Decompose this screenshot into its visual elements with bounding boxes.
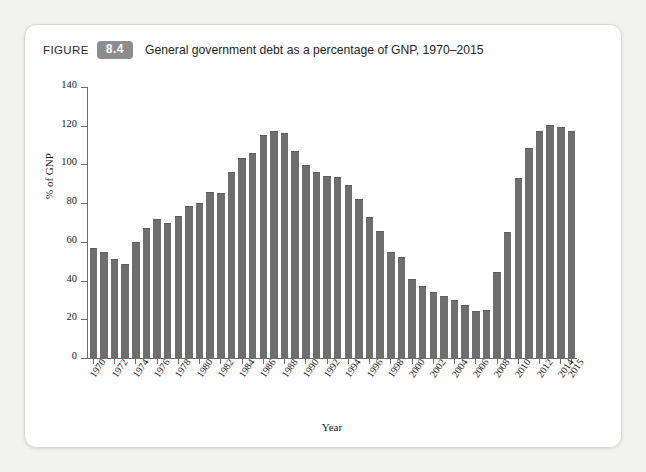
bar-slot [184,87,195,358]
bar [260,135,267,358]
x-label-slot: 1978 [173,365,184,405]
y-axis-tick-label: 60 [67,234,78,245]
bar [238,158,245,358]
figure-card: FIGURE 8.4 General government debt as a … [24,24,622,448]
bar [100,252,107,358]
bar [90,248,97,358]
bar [525,148,532,358]
bar-slot [205,87,216,358]
bar-slot [481,87,492,358]
bar [440,296,447,358]
x-label-slot [375,365,386,405]
x-axis-title: Year [87,421,577,433]
bar [164,223,171,359]
bar [472,311,479,358]
bar-slot [492,87,503,358]
y-axis-title: % of GNP [43,153,55,199]
bar-slot [152,87,163,358]
y-axis-tick: 80 [81,203,87,204]
bar [185,206,192,358]
bar-slot [449,87,460,358]
bar [270,131,277,358]
bar-slot [534,87,545,358]
bar-slot [354,87,365,358]
bar-slot [237,87,248,358]
x-label-slot: 1980 [194,365,205,405]
x-label-slot [205,365,216,405]
x-label-slot [141,365,152,405]
bar-slot [162,87,173,358]
x-axis-tick-labels: 1970197219741976197819801982198419861988… [88,365,577,405]
chart-plot-area: % of GNP 020406080100120140 197019721974… [25,69,623,447]
bar-slot [301,87,312,358]
y-axis-tick: 120 [81,126,87,127]
bar-slot [417,87,428,358]
bar [504,232,511,358]
bar [483,310,490,358]
x-label-slot: 2008 [492,365,503,405]
bar [249,153,256,358]
bar [228,172,235,358]
x-label-slot: 1986 [258,365,269,405]
x-label-slot: 1976 [152,365,163,405]
bar [568,131,575,358]
bar-slot [513,87,524,358]
y-axis-tick-label: 20 [67,311,78,322]
x-label-slot: 1984 [237,365,248,405]
bar [217,193,224,358]
x-label-slot [524,365,535,405]
bar [387,252,394,358]
x-label-slot [396,365,407,405]
bar [461,305,468,358]
bar [376,231,383,358]
bar [206,192,213,358]
bar [430,292,437,358]
bar [196,203,203,358]
bar-slot [226,87,237,358]
figure-number-badge: 8.4 [97,41,133,59]
bar [366,217,373,358]
bar-slot [386,87,397,358]
bar-slot [332,87,343,358]
bar [536,131,543,358]
bar [515,178,522,358]
bar-slot [269,87,280,358]
figure-title: General government debt as a percentage … [145,43,484,57]
bar-slot [88,87,99,358]
bar [355,199,362,358]
bar [153,219,160,358]
bar [121,264,128,358]
x-label-slot [481,365,492,405]
y-axis-tick: 0 [81,358,87,359]
bar-slot [194,87,205,358]
x-label-slot: 2000 [407,365,418,405]
x-label-slot [226,365,237,405]
bar-slot [247,87,258,358]
bar-slot [375,87,386,358]
bar-slot [407,87,418,358]
bar-slot [216,87,227,358]
x-label-slot [545,365,556,405]
x-label-slot: 1972 [109,365,120,405]
x-label-slot [99,365,110,405]
bar [302,165,309,358]
x-label-slot [184,365,195,405]
bar-slot [471,87,482,358]
bar [281,133,288,359]
bar-slot [290,87,301,358]
bar-slot [322,87,333,358]
x-label-slot [332,365,343,405]
x-label-slot [460,365,471,405]
y-axis-tick-label: 80 [67,195,78,206]
x-label-slot: 1970 [88,365,99,405]
bar [132,242,139,358]
bar-slot [109,87,120,358]
bar [323,176,330,358]
bar [451,300,458,358]
bar-slot [131,87,142,358]
bar-slot [396,87,407,358]
bar-slot [460,87,471,358]
bar [334,177,341,358]
bar-slot [364,87,375,358]
bar-slot [343,87,354,358]
